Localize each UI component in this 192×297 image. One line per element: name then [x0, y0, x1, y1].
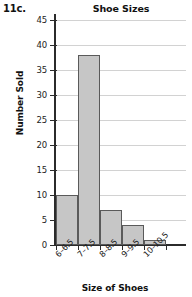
y-axis-tick-label: 35	[24, 65, 47, 75]
y-axis-tick-label: 40	[24, 40, 47, 50]
problem-number: 11c.	[3, 3, 26, 14]
y-axis-tick-label: 25	[24, 115, 47, 125]
x-axis-tick	[166, 245, 167, 250]
y-axis-tick-label: 20	[24, 140, 47, 150]
y-axis-tick-label: 10	[24, 190, 47, 200]
bar	[78, 55, 100, 245]
y-axis-label: Number Sold	[15, 64, 25, 142]
y-axis-tick-label: 45	[24, 15, 47, 25]
x-axis-label: Size of Shoes	[40, 283, 190, 293]
chart-title: Shoe Sizes	[56, 3, 186, 14]
y-axis-tick-label: 15	[24, 165, 47, 175]
plot-area	[56, 20, 186, 245]
y-axis-tick-label: 0	[24, 240, 47, 250]
y-axis-tick-label: 5	[24, 215, 47, 225]
y-axis-tick-label: 30	[24, 90, 47, 100]
